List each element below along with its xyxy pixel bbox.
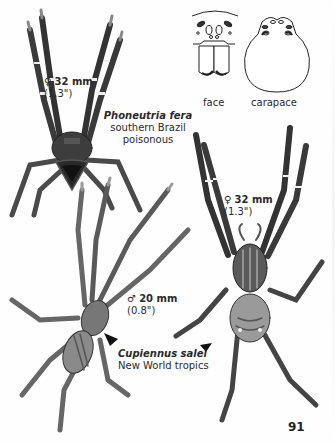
- carapace-label: carapace: [251, 97, 297, 108]
- cupiennus-caption: Cupiennus salei New World tropics: [118, 348, 209, 372]
- arrowhead-pointer-icon: [104, 333, 118, 346]
- face-label: face: [203, 97, 224, 108]
- phoneutria-caption: Phoneutria fera southern Brazil poisonou…: [98, 110, 198, 146]
- species-range: New World tropics: [118, 360, 209, 372]
- species-name: Phoneutria fera: [98, 110, 198, 122]
- species-range: southern Brazil: [98, 122, 198, 134]
- face-diagram: [192, 11, 238, 75]
- carapace-diagram: [245, 17, 310, 92]
- cupiennus-male-size-label: ♂ 20 mm (0.8"): [127, 293, 177, 317]
- phoneutria-size-label: ♀ 32 mm (1.3"): [44, 76, 93, 100]
- species-name: Cupiennus salei: [118, 348, 209, 360]
- page-number: 91: [288, 420, 305, 434]
- spider-illustrations: [0, 0, 335, 442]
- book-page: ♀ 32 mm (1.3") Phoneutria fera southern …: [0, 0, 335, 442]
- cupiennus-salei-female-illustration: [176, 128, 322, 420]
- cupiennus-female-size-label: ♀ 32 mm (1.3"): [224, 194, 273, 218]
- species-note: poisonous: [98, 134, 198, 146]
